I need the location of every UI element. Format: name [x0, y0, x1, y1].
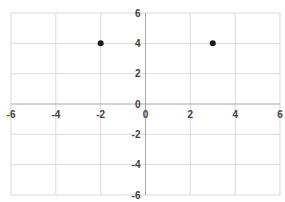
data-point	[210, 40, 216, 46]
y-tick-label: 4	[135, 38, 141, 49]
y-tick-label: 6	[135, 8, 141, 19]
y-tick-label: -4	[132, 159, 141, 170]
x-tick-label: 6	[277, 109, 283, 120]
x-tick-label: 2	[188, 109, 194, 120]
x-tick-label: 0	[143, 109, 149, 120]
data-point	[98, 40, 104, 46]
axes	[11, 13, 280, 195]
y-tick-label: 2	[135, 68, 141, 79]
x-tick-label: -2	[96, 109, 105, 120]
scatter-chart: -6-4-20246-6-4-20246	[0, 0, 285, 202]
x-tick-label: 4	[232, 109, 238, 120]
x-tick-label: -4	[51, 109, 60, 120]
y-tick-label: -6	[132, 190, 141, 201]
y-tick-label: -2	[132, 129, 141, 140]
y-tick-label: 0	[135, 99, 141, 110]
x-tick-label: -6	[7, 109, 16, 120]
